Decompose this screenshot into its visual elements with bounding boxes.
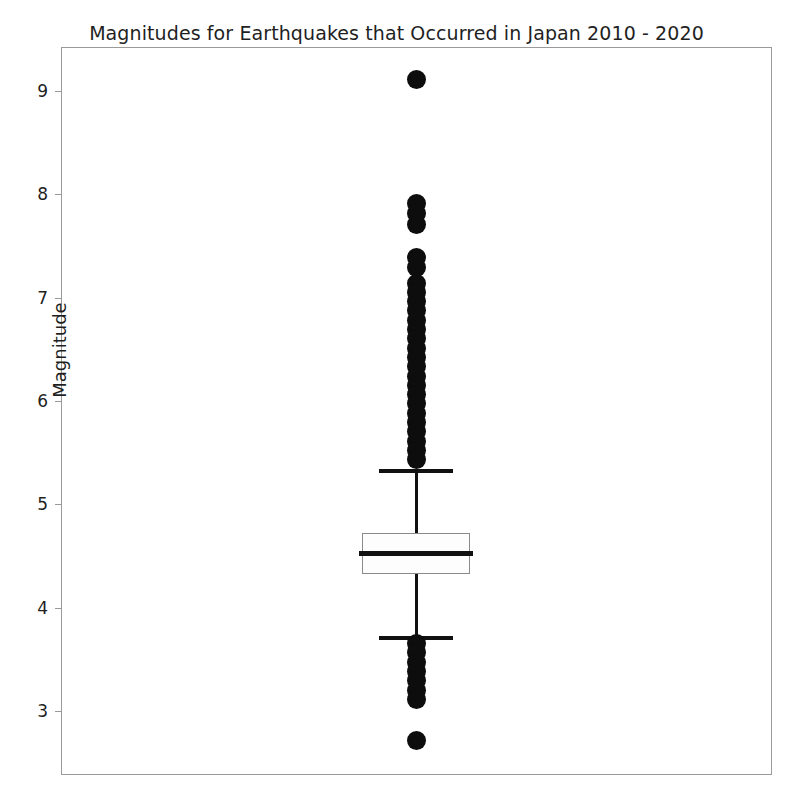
plot-area	[61, 47, 772, 775]
y-tick-mark	[55, 194, 61, 195]
y-tick-label: 7	[0, 288, 48, 308]
y-tick-label: 8	[0, 184, 48, 204]
y-tick-mark	[55, 504, 61, 505]
y-tick-mark	[55, 711, 61, 712]
y-tick-mark	[55, 401, 61, 402]
y-tick-label: 3	[0, 701, 48, 721]
y-tick-mark	[55, 298, 61, 299]
y-tick-label: 9	[0, 81, 48, 101]
page-title: Magnitudes for Earthquakes that Occurred…	[0, 22, 793, 44]
y-tick-mark	[55, 608, 61, 609]
y-tick-mark	[55, 91, 61, 92]
y-tick-label: 5	[0, 494, 48, 514]
chart-figure: Magnitudes for Earthquakes that Occurred…	[0, 0, 793, 802]
y-tick-label: 6	[0, 391, 48, 411]
y-tick-label: 4	[0, 598, 48, 618]
